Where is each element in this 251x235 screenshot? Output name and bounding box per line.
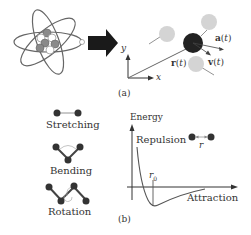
rotation-label: Rotation: [48, 207, 91, 217]
caption-b: (b): [118, 215, 131, 224]
energy-axis-label: Energy: [130, 113, 163, 122]
axis-y-label: y: [121, 44, 126, 53]
velocity-label: v(t): [208, 58, 224, 67]
atom-icon: [14, 6, 85, 77]
bending-icon: [53, 144, 84, 164]
bending-label: Bending: [50, 166, 92, 176]
distance-label: r: [199, 141, 203, 150]
attraction-label: Attraction: [187, 193, 238, 203]
stretching-label: Stretching: [46, 120, 100, 130]
equilibrium-label: r0: [149, 171, 157, 182]
acceleration-label: a(t): [215, 34, 232, 43]
position-label: r(t): [171, 59, 186, 68]
rotation-icon: [46, 183, 90, 205]
repulsion-label: Repulsion: [136, 135, 186, 145]
transition-arrow: [88, 29, 118, 57]
axis-x-label: x: [156, 73, 161, 82]
caption-a: (a): [118, 89, 130, 98]
stretching-icon: [54, 110, 82, 117]
